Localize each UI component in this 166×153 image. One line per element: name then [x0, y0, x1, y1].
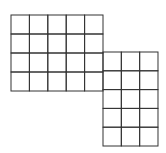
grid-cell: [29, 34, 47, 53]
grid-cell: [121, 52, 139, 71]
grid-cell: [66, 15, 84, 34]
grid-cell: [11, 15, 29, 34]
grid-cell: [140, 108, 158, 127]
grid-cell: [103, 52, 121, 71]
grid-cell: [85, 15, 103, 34]
grid-cell: [121, 90, 139, 109]
grid-cell: [121, 108, 139, 127]
grid-cell: [11, 53, 29, 72]
left-block: [11, 15, 103, 91]
grid-cell: [85, 34, 103, 53]
grid-cell: [66, 34, 84, 53]
grid-cell: [140, 71, 158, 90]
grid-cell: [29, 53, 47, 72]
grid-cell: [48, 34, 66, 53]
grid-cell: [121, 127, 139, 146]
grid-cell: [29, 72, 47, 91]
grid-cell: [66, 53, 84, 72]
grid-cell: [140, 52, 158, 71]
grid-cell: [11, 72, 29, 91]
grid-cell: [85, 53, 103, 72]
grid-cell: [48, 72, 66, 91]
grid-cell: [140, 127, 158, 146]
grid-figure: [0, 0, 166, 153]
grid-cell: [103, 71, 121, 90]
grid-cell: [85, 72, 103, 91]
grid-cell: [48, 53, 66, 72]
right-block: [103, 52, 158, 146]
grid-cell: [103, 127, 121, 146]
grid-cell: [140, 90, 158, 109]
grid-cell: [121, 71, 139, 90]
grid-cell: [103, 90, 121, 109]
grid-cell: [103, 108, 121, 127]
grid-cell: [48, 15, 66, 34]
grid-cell: [29, 15, 47, 34]
grid-cell: [66, 72, 84, 91]
grid-cell: [11, 34, 29, 53]
